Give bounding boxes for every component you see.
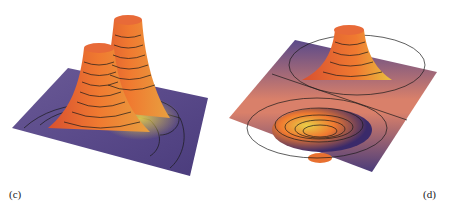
panel-c: (c)	[0, 0, 227, 208]
surface-plot-two-peaks	[0, 0, 227, 208]
panel-d: (d)	[227, 0, 454, 208]
panel-label-c: (c)	[9, 188, 21, 200]
panel-label-d: (d)	[423, 188, 436, 200]
surface-plot-peak-trough	[227, 0, 454, 208]
